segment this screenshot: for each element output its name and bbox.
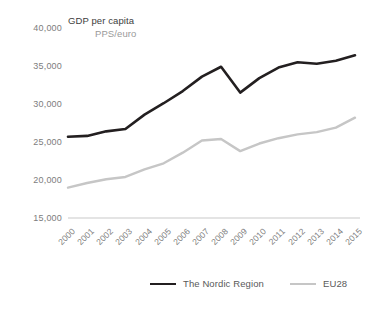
plot-area bbox=[0, 0, 372, 315]
series-line-eu28 bbox=[68, 118, 355, 188]
series-line-nordic bbox=[68, 55, 355, 136]
legend-swatch-eu28-icon bbox=[290, 283, 316, 285]
legend-item-nordic: The Nordic Region bbox=[150, 278, 264, 289]
legend-item-eu28: EU28 bbox=[290, 278, 347, 289]
legend-label-nordic: The Nordic Region bbox=[183, 278, 264, 289]
gdp-per-capita-chart: GDP per capita PPS/euro 15,00020,00025,0… bbox=[0, 0, 372, 315]
legend-swatch-nordic-icon bbox=[150, 283, 176, 285]
chart-legend: The Nordic Region EU28 bbox=[150, 278, 365, 294]
legend-label-eu28: EU28 bbox=[323, 278, 347, 289]
